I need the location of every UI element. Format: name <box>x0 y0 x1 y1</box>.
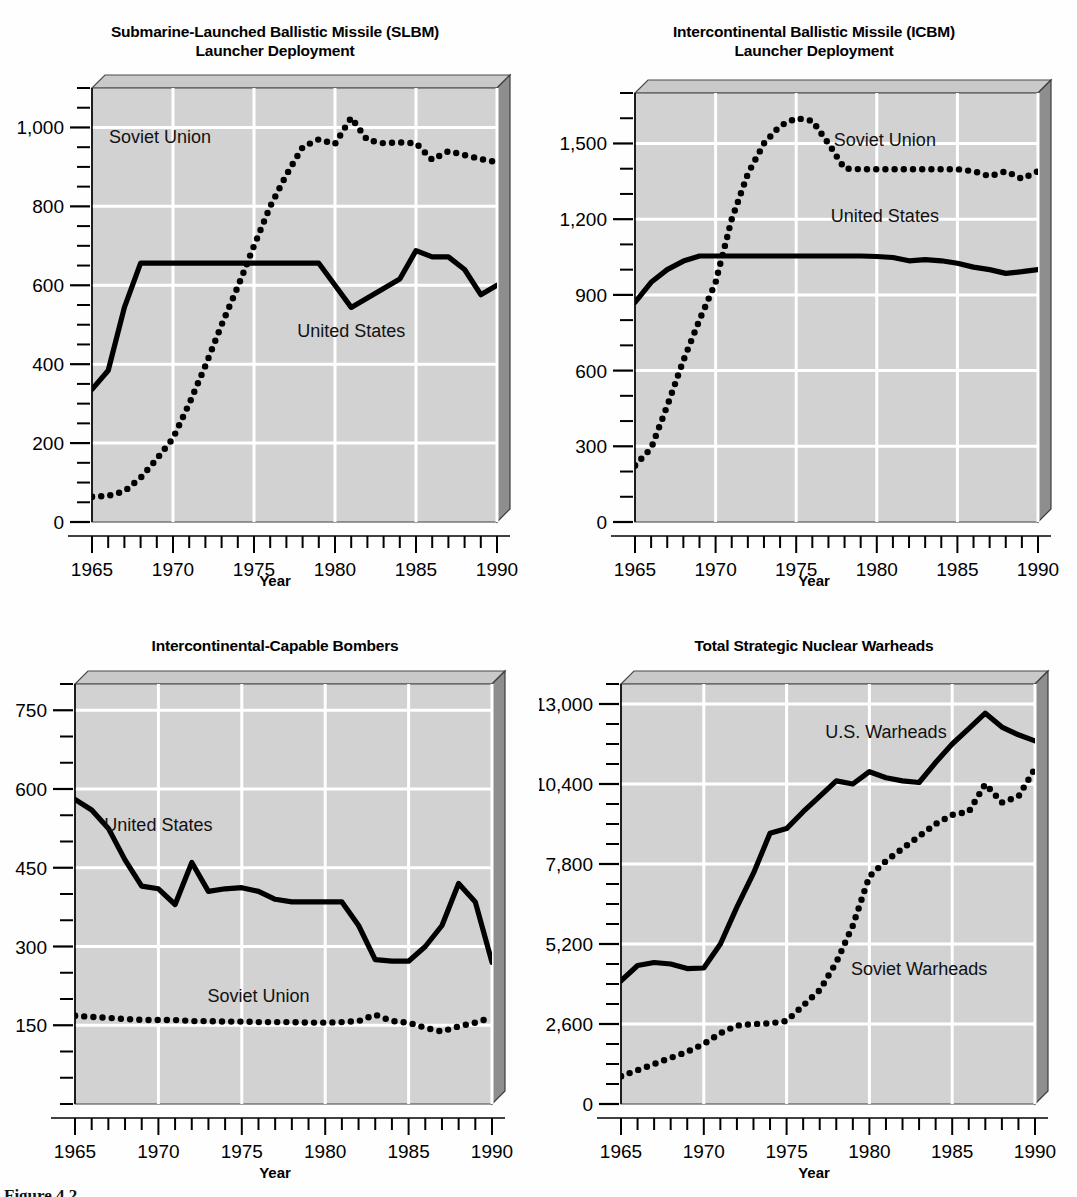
plot-background <box>92 88 497 522</box>
figure-page: Submarine-Launched Ballistic Missile (SL… <box>0 0 1077 1197</box>
y-tick-label: 10,400 <box>539 774 593 795</box>
y-tick-label: 150 <box>15 1015 47 1036</box>
series-annotation-label: Soviet Warheads <box>851 959 987 979</box>
plot-3d-top-face <box>75 671 505 684</box>
plot-3d-right-face <box>1038 80 1051 522</box>
x-tick-label: 1990 <box>1014 1141 1056 1162</box>
x-tick-label: 1975 <box>765 1141 807 1162</box>
plot-3d-top-face <box>621 671 1048 684</box>
plot-3d-right-face <box>1035 671 1048 1104</box>
y-tick-label: 200 <box>32 433 64 454</box>
chart-panel-bombers: Intercontinental-Capable Bombers 1503004… <box>0 598 538 1196</box>
x-axis-ticks <box>75 1118 492 1135</box>
series-annotation-label: United States <box>831 206 939 226</box>
x-axis-ticks <box>635 536 1038 553</box>
y-tick-label: 2,600 <box>545 1014 593 1035</box>
plot-3d-top-face <box>635 80 1051 93</box>
x-axis-ticks <box>621 1118 1035 1135</box>
y-tick-label: 5,200 <box>545 934 593 955</box>
plot-background <box>621 684 1035 1104</box>
x-axis-ticks <box>92 536 497 553</box>
y-axis-ticks <box>599 684 619 1104</box>
x-tick-label: 1975 <box>221 1141 263 1162</box>
plot-3d-top-face <box>92 75 510 88</box>
y-tick-label: 400 <box>32 354 64 375</box>
x-axis-label-bombers: Year <box>40 1164 510 1181</box>
x-axis-tick-labels: 196519701975198019851990 <box>54 1141 513 1162</box>
chart-title-line2: Launcher Deployment <box>40 41 510 60</box>
y-tick-label: 0 <box>53 512 64 533</box>
x-axis-tick-labels: 196519701975198019851990 <box>600 1141 1056 1162</box>
plot-svg-slbm: 02004006008001,0001965197019751980198519… <box>0 70 538 580</box>
series-annotation-label: Soviet Union <box>834 130 936 150</box>
x-tick-label: 1965 <box>600 1141 642 1162</box>
y-tick-label: 300 <box>575 436 607 457</box>
y-tick-label: 600 <box>15 779 47 800</box>
plot-area-bombers: 150300450600750196519701975198019851990U… <box>0 664 538 1174</box>
series-annotation-label: United States <box>104 815 212 835</box>
x-tick-label: 1985 <box>931 1141 973 1162</box>
plot-background <box>75 684 492 1104</box>
chart-title-bombers: Intercontinental-Capable Bombers <box>40 636 510 655</box>
chart-title-line1: Submarine-Launched Ballistic Missile (SL… <box>111 23 439 40</box>
plot-svg-warheads: 02,6005,2007,80010,40013,000196519701975… <box>539 664 1077 1174</box>
chart-title-line1: Intercontinental-Capable Bombers <box>152 637 399 654</box>
x-tick-label: 1980 <box>848 1141 890 1162</box>
plot-area-icbm: 03006009001,2001,50019651970197519801985… <box>539 70 1077 580</box>
plot-area-warheads: 02,6005,2007,80010,40013,000196519701975… <box>539 664 1077 1174</box>
x-tick-label: 1990 <box>471 1141 513 1162</box>
chart-title-line2: Launcher Deployment <box>579 41 1049 60</box>
y-tick-label: 1,200 <box>559 209 607 230</box>
chart-panel-slbm: Submarine-Launched Ballistic Missile (SL… <box>0 0 538 598</box>
chart-title-warheads: Total Strategic Nuclear Warheads <box>579 636 1049 655</box>
y-tick-label: 1,500 <box>559 133 607 154</box>
chart-title-line1: Intercontinental Ballistic Missile (ICBM… <box>673 23 955 40</box>
x-axis-label-warheads: Year <box>579 1164 1049 1181</box>
y-axis-tick-labels: 150300450600750 <box>15 700 47 1036</box>
x-axis-label-slbm: Year <box>40 572 510 589</box>
y-tick-label: 7,800 <box>545 854 593 875</box>
x-tick-label: 1970 <box>683 1141 725 1162</box>
y-tick-label: 1,000 <box>16 117 64 138</box>
y-tick-label: 800 <box>32 196 64 217</box>
y-axis-ticks <box>70 88 90 522</box>
y-tick-label: 0 <box>596 512 607 533</box>
y-axis-tick-labels: 02,6005,2007,80010,40013,000 <box>539 694 593 1115</box>
x-tick-label: 1970 <box>137 1141 179 1162</box>
chart-panel-warheads: Total Strategic Nuclear Warheads 02,6005… <box>539 598 1077 1196</box>
plot-svg-bombers: 150300450600750196519701975198019851990U… <box>0 664 538 1174</box>
chart-title-icbm: Intercontinental Ballistic Missile (ICBM… <box>579 22 1049 60</box>
chart-title-slbm: Submarine-Launched Ballistic Missile (SL… <box>40 22 510 60</box>
plot-area-slbm: 02004006008001,0001965197019751980198519… <box>0 70 538 580</box>
x-tick-label: 1985 <box>387 1141 429 1162</box>
x-tick-label: 1980 <box>304 1141 346 1162</box>
y-tick-label: 600 <box>32 275 64 296</box>
y-tick-label: 750 <box>15 700 47 721</box>
series-annotation-label: Soviet Union <box>109 127 211 147</box>
y-axis-tick-labels: 03006009001,2001,500 <box>559 133 607 533</box>
plot-svg-icbm: 03006009001,2001,50019651970197519801985… <box>539 70 1077 580</box>
series-annotation-label: United States <box>297 321 405 341</box>
y-tick-label: 0 <box>582 1094 593 1115</box>
figure-caption: Figure 4.2 <box>4 1186 77 1197</box>
x-tick-label: 1965 <box>54 1141 96 1162</box>
y-tick-label: 600 <box>575 361 607 382</box>
plot-3d-right-face <box>497 75 510 522</box>
y-tick-label: 900 <box>575 285 607 306</box>
y-axis-tick-labels: 02004006008001,000 <box>16 117 64 533</box>
y-tick-label: 13,000 <box>539 694 593 715</box>
x-axis-label-icbm: Year <box>579 572 1049 589</box>
chart-panel-icbm: Intercontinental Ballistic Missile (ICBM… <box>539 0 1077 598</box>
chart-title-line1: Total Strategic Nuclear Warheads <box>694 637 933 654</box>
plot-3d-right-face <box>492 671 505 1104</box>
series-annotation-label: U.S. Warheads <box>825 722 946 742</box>
y-tick-label: 450 <box>15 858 47 879</box>
series-annotation-label: Soviet Union <box>207 986 309 1006</box>
y-tick-label: 300 <box>15 937 47 958</box>
y-axis-ticks <box>613 93 633 522</box>
y-axis-ticks <box>53 684 73 1104</box>
